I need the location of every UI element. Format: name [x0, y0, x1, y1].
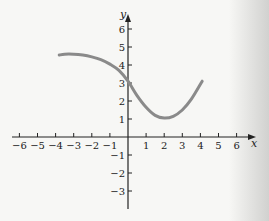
ticks: −6−5−4−3−2−1123456−3−2−1123456 [12, 24, 240, 197]
y-tick-label: 1 [119, 114, 125, 125]
y-tick-label: −2 [110, 168, 125, 179]
y-tick-label: −3 [110, 186, 125, 197]
y-axis-label: y [119, 8, 127, 21]
x-tick-label: 6 [233, 140, 239, 151]
x-tick-label: −2 [84, 140, 99, 151]
y-tick-label: 5 [119, 42, 125, 53]
x-tick-label: −3 [66, 140, 81, 151]
x-tick-label: 5 [215, 140, 221, 151]
axes [12, 14, 256, 209]
y-tick-label: 3 [119, 78, 125, 89]
y-tick-label: 2 [119, 96, 125, 107]
x-tick-label: −4 [48, 140, 63, 151]
function-graph: −6−5−4−3−2−1123456−3−2−1123456 x y [0, 0, 269, 221]
function-curve [59, 54, 202, 118]
x-tick-label: −6 [12, 140, 27, 151]
x-tick-label: 4 [197, 140, 203, 151]
x-tick-label: 1 [143, 140, 149, 151]
x-tick-label: 3 [179, 140, 185, 151]
y-tick-label: 6 [119, 24, 125, 35]
y-tick-label: 4 [119, 60, 125, 71]
y-tick-label: −1 [110, 150, 125, 161]
x-axis-label: x [251, 137, 258, 150]
x-tick-label: −5 [30, 140, 45, 151]
x-tick-label: 2 [161, 140, 167, 151]
